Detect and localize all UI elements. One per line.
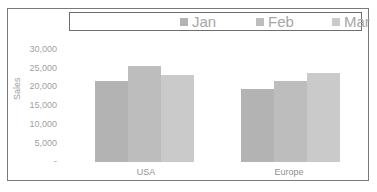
y-tick-30000: 30,000 [17,44,57,54]
legend-swatch-feb [256,18,264,26]
bar-usa-jan [95,81,128,162]
bar-europe-mar [307,73,340,162]
y-tick-5000: 5,000 [17,138,57,148]
bar-usa-mar [161,75,194,162]
legend-label-feb: Feb [268,13,294,30]
legend-label-mar: Mar [344,13,370,30]
chart-legend: Jan Feb Mar [69,12,362,31]
bar-europe-feb [274,81,307,162]
legend-swatch-jan [180,18,188,26]
y-tick-0: - [17,156,57,166]
x-label-usa: USA [106,167,186,177]
y-tick-20000: 20,000 [17,81,57,91]
bar-europe-jan [241,89,274,162]
legend-item-feb: Feb [256,13,294,30]
legend-swatch-mar [332,18,340,26]
legend-item-jan: Jan [180,13,216,30]
y-tick-25000: 25,000 [17,63,57,73]
bar-usa-feb [128,66,161,162]
x-label-europe: Europe [249,167,329,177]
y-tick-10000: 10,000 [17,119,57,129]
legend-item-mar: Mar [332,13,370,30]
y-tick-15000: 15,000 [17,100,57,110]
legend-label-jan: Jan [192,13,216,30]
